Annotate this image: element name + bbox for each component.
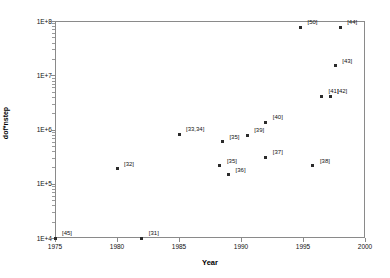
x-axis-tick-label: 1980 bbox=[97, 243, 137, 250]
y-axis-minor-tick bbox=[52, 189, 55, 190]
data-point-label: [50] bbox=[308, 19, 318, 26]
data-point bbox=[116, 167, 119, 170]
data-point bbox=[311, 164, 314, 167]
data-point-label: [40] bbox=[273, 114, 283, 121]
y-axis-minor-tick bbox=[52, 200, 55, 201]
x-axis-tick-label: 1975 bbox=[35, 243, 75, 250]
y-axis-minor-tick bbox=[52, 26, 55, 27]
y-axis-tick-mark bbox=[51, 21, 55, 22]
x-axis-tick-label: 1985 bbox=[159, 243, 199, 250]
y-axis-minor-tick bbox=[52, 104, 55, 105]
data-point-label: [45] bbox=[62, 230, 72, 237]
y-axis-minor-tick bbox=[52, 37, 55, 38]
x-axis-tick-mark bbox=[365, 238, 366, 242]
y-axis-minor-tick bbox=[52, 132, 55, 133]
data-point-label: [36] bbox=[236, 167, 246, 174]
y-axis-tick-mark bbox=[51, 184, 55, 185]
y-axis-tick-mark bbox=[51, 75, 55, 76]
y-axis-minor-tick bbox=[52, 212, 55, 213]
y-axis-minor-tick bbox=[52, 196, 55, 197]
data-point bbox=[334, 64, 337, 67]
data-point bbox=[221, 140, 224, 143]
x-axis-tick-mark bbox=[117, 238, 118, 242]
chart-figure: dof*nstep 1E+41E+51E+61E+71E+8 Year 1975… bbox=[0, 0, 390, 278]
x-axis-tick-label: 2000 bbox=[345, 243, 385, 250]
data-point-label: [37] bbox=[273, 149, 283, 156]
data-point bbox=[227, 173, 230, 176]
data-point bbox=[320, 95, 323, 98]
y-axis-minor-tick bbox=[52, 186, 55, 187]
y-axis-tick-label: 1E+5 bbox=[6, 180, 52, 187]
x-axis-tick-label: 1990 bbox=[221, 243, 261, 250]
y-axis-minor-tick bbox=[52, 135, 55, 136]
y-axis-minor-tick bbox=[52, 158, 55, 159]
y-axis-tick-label: 1E+7 bbox=[6, 72, 52, 79]
x-axis-title: Year bbox=[55, 258, 365, 267]
y-axis-minor-tick bbox=[52, 146, 55, 147]
data-point-label: [32] bbox=[124, 161, 134, 168]
x-axis-tick-mark bbox=[303, 238, 304, 242]
data-point bbox=[54, 237, 57, 240]
data-point bbox=[246, 134, 249, 137]
y-axis-minor-tick bbox=[52, 167, 55, 168]
y-axis-minor-tick bbox=[52, 113, 55, 114]
y-axis-minor-tick bbox=[52, 138, 55, 139]
y-axis-minor-tick bbox=[52, 84, 55, 85]
y-axis-minor-tick bbox=[52, 59, 55, 60]
x-axis-tick-mark bbox=[241, 238, 242, 242]
y-axis-tick-labels: 1E+41E+51E+61E+71E+8 bbox=[0, 0, 52, 278]
y-axis-minor-tick bbox=[52, 49, 55, 50]
data-point bbox=[329, 95, 332, 98]
data-point-label: [43] bbox=[342, 58, 352, 65]
y-axis-tick-label: 1E+8 bbox=[6, 18, 52, 25]
data-point bbox=[339, 26, 342, 29]
data-point bbox=[299, 26, 302, 29]
y-axis-minor-tick bbox=[52, 151, 55, 152]
data-point-label: [35] bbox=[227, 158, 237, 165]
plot-area bbox=[55, 21, 365, 238]
data-point bbox=[140, 237, 143, 240]
y-axis-minor-tick bbox=[52, 23, 55, 24]
y-axis-tick-mark bbox=[51, 130, 55, 131]
data-point-label: [42] bbox=[337, 88, 347, 95]
y-axis-minor-tick bbox=[52, 33, 55, 34]
y-axis-minor-tick bbox=[52, 81, 55, 82]
y-axis-minor-tick bbox=[52, 222, 55, 223]
x-axis-tick-label: 1995 bbox=[283, 243, 323, 250]
data-point-label: [39] bbox=[254, 127, 264, 134]
y-axis-tick-label: 1E+6 bbox=[6, 126, 52, 133]
y-axis-tick-label: 1E+4 bbox=[6, 235, 52, 242]
data-point bbox=[264, 121, 267, 124]
y-axis-minor-tick bbox=[52, 142, 55, 143]
y-axis-minor-tick bbox=[52, 97, 55, 98]
y-axis-minor-tick bbox=[52, 87, 55, 88]
data-point-label: [35] bbox=[229, 134, 239, 141]
y-axis-minor-tick bbox=[52, 192, 55, 193]
y-axis-minor-tick bbox=[52, 92, 55, 93]
x-axis-tick-mark bbox=[179, 238, 180, 242]
y-axis-minor-tick bbox=[52, 43, 55, 44]
y-axis-minor-tick bbox=[52, 78, 55, 79]
data-point bbox=[264, 156, 267, 159]
data-point-label: [33,34] bbox=[186, 126, 204, 133]
y-axis-minor-tick bbox=[52, 205, 55, 206]
data-point bbox=[218, 164, 221, 167]
data-point bbox=[178, 133, 181, 136]
data-point-label: [38] bbox=[320, 158, 330, 165]
data-point-label: [31] bbox=[149, 230, 159, 237]
data-point-label: [44] bbox=[347, 19, 357, 26]
y-axis-minor-tick bbox=[52, 29, 55, 30]
